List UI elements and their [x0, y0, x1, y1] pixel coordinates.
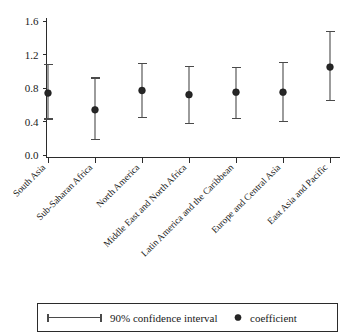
y-tick-group: 0.00.40.81.21.6	[25, 15, 47, 161]
coefficient-marker	[139, 87, 146, 94]
legend-interval-sample	[48, 314, 101, 322]
data-series-group	[44, 32, 335, 139]
legend: 90% confidence interval coefficient	[38, 304, 338, 332]
coefficient-marker	[327, 64, 334, 71]
x-tick-group	[48, 158, 330, 164]
data-point-group	[44, 65, 53, 119]
category-label: Latin America and the Caribbean	[139, 162, 235, 258]
legend-coefficient-label: coefficient	[250, 312, 297, 324]
coefficient-marker	[280, 89, 287, 96]
data-point-group	[185, 66, 194, 123]
legend-coefficient-marker	[235, 314, 241, 320]
category-label: Middle East and North Africa	[101, 162, 188, 249]
coefficient-plot-figure: 0.00.40.81.21.6 South AsiaSub-Saharan Af…	[0, 0, 346, 336]
data-point-group	[279, 63, 288, 122]
data-point-group	[138, 64, 147, 118]
y-tick-label: 0.4	[25, 116, 39, 128]
data-point-group	[91, 78, 100, 139]
y-tick-label: 0.8	[25, 82, 39, 94]
data-point-group	[232, 67, 241, 118]
x-axis	[47, 158, 341, 164]
y-tick-label: 0.0	[25, 149, 39, 161]
data-point-group	[326, 32, 335, 101]
coefficient-marker	[45, 90, 52, 97]
y-axis: 0.00.40.81.21.6	[25, 15, 47, 161]
coefficient-marker	[92, 106, 99, 113]
y-tick-label: 1.2	[25, 49, 39, 61]
coefficient-marker	[186, 91, 193, 98]
category-label: North America	[94, 162, 142, 210]
coefficient-marker	[233, 89, 240, 96]
legend-interval-label: 90% confidence interval	[110, 312, 218, 324]
y-tick-label: 1.6	[25, 15, 39, 27]
chart-canvas: 0.00.40.81.21.6 South AsiaSub-Saharan Af…	[0, 0, 346, 336]
category-label-group: South AsiaSub-Saharan AfricaNorth Americ…	[11, 162, 329, 259]
category-label: South Asia	[11, 162, 48, 199]
